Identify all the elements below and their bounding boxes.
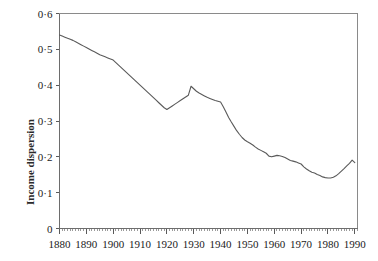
x-tick-label: 1920: [156, 238, 179, 250]
y-axis-labels: 0·60·50·40·30·20·10: [38, 8, 53, 235]
x-tick-label: 1960: [263, 238, 286, 250]
x-tick-label: 1880: [49, 238, 72, 250]
plot-border: [60, 14, 358, 229]
line-chart-svg: 0·60·50·40·30·20·10 18801890190019101920…: [0, 0, 378, 261]
y-tick-label: 0·3: [38, 115, 53, 127]
x-tick-label: 1990: [344, 238, 367, 250]
y-tick-label: 0·2: [38, 151, 53, 163]
plot-frame: [60, 14, 358, 229]
y-tick-label: 0·5: [38, 43, 53, 55]
x-tick-label: 1890: [75, 238, 98, 250]
y-tick-label: 0: [47, 223, 53, 235]
y-tick-label: 0·1: [38, 187, 53, 199]
x-axis-labels: 1880189019001910192019301940195019601970…: [49, 238, 367, 250]
series-group: [60, 35, 355, 178]
y-tick-label: 0·4: [38, 79, 53, 91]
x-tick-label: 1900: [102, 238, 125, 250]
x-tick-label: 1980: [317, 238, 340, 250]
chart-figure: Income dispersion 0·60·50·40·30·20·10 18…: [0, 0, 378, 261]
y-axis-tick-group: [56, 14, 60, 229]
x-tick-label: 1970: [290, 238, 313, 250]
x-axis-tick-group: [60, 229, 358, 234]
x-tick-label: 1940: [210, 238, 233, 250]
x-tick-label: 1950: [236, 238, 259, 250]
x-tick-label: 1910: [129, 238, 152, 250]
series-line-income-dispersion: [60, 35, 355, 178]
y-tick-label: 0·6: [38, 8, 53, 20]
x-tick-label: 1930: [183, 238, 206, 250]
